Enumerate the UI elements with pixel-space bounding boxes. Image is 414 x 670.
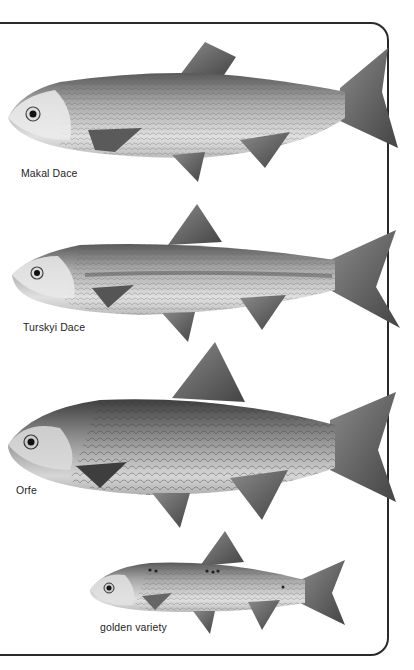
caption-turskyi-dace: Turskyi Dace (23, 321, 85, 333)
fish-illustrations (0, 0, 414, 670)
fish-orfe (8, 342, 396, 528)
caption-orfe: Orfe (16, 484, 37, 496)
fish-illustration-plate: Makal Dace Turskyi Dace Orfe golden vari… (0, 0, 414, 670)
caption-golden-variety: golden variety (100, 621, 167, 633)
fish-makal-dace (8, 42, 398, 182)
caption-makal-dace: Makal Dace (21, 167, 77, 179)
fish-orfe-golden-variety (90, 531, 345, 634)
